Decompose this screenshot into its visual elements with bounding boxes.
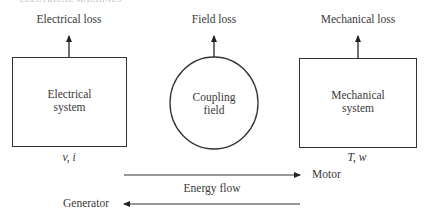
mechanical-block-line2: system [300,102,416,115]
energy-flow-label: Energy flow [184,182,241,194]
mechanical-loss-label: Mechanical loss [321,13,395,25]
coupling-field-text: Coupling field [193,91,236,117]
field-loss-label: Field loss [192,13,236,25]
motor-label: Motor [312,168,341,180]
electrical-loss-label: Electrical loss [37,13,102,25]
mechanical-variables: T, w [348,151,367,163]
generator-label: Generator [63,197,109,209]
electrical-block-line2: system [13,101,126,114]
electrical-variables: v, i [62,151,75,163]
electrical-block-line1: Electrical [13,88,126,101]
coupling-line2: field [193,104,236,117]
mechanical-block-line1: Mechanical [300,89,416,102]
electrical-system-block: Electrical system [12,57,127,147]
coupling-line1: Coupling [193,91,236,104]
mechanical-system-block: Mechanical system [299,58,417,148]
